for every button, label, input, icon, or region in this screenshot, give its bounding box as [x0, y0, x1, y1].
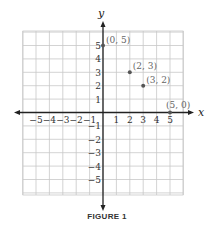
svg-text:(3, 2): (3, 2) [146, 75, 170, 85]
svg-text:−3: −3 [88, 148, 102, 158]
svg-text:−5: −5 [88, 175, 102, 185]
svg-text:(2, 3): (2, 3) [133, 61, 157, 71]
svg-text:(5, 0): (5, 0) [166, 100, 190, 110]
svg-text:−2: −2 [70, 115, 83, 125]
svg-text:2: 2 [95, 81, 101, 91]
svg-text:5: 5 [95, 41, 101, 51]
svg-text:x: x [198, 106, 205, 119]
svg-text:−3: −3 [56, 115, 70, 125]
svg-text:−4: −4 [88, 162, 102, 172]
svg-text:y: y [97, 7, 105, 20]
svg-text:−4: −4 [43, 115, 57, 125]
svg-text:5: 5 [167, 115, 173, 125]
svg-text:−1: −1 [88, 121, 101, 131]
svg-text:1: 1 [95, 95, 101, 105]
svg-text:2: 2 [127, 115, 133, 125]
figure-caption: FIGURE 1 [0, 212, 214, 221]
svg-text:3: 3 [95, 68, 101, 78]
svg-text:4: 4 [95, 54, 101, 64]
svg-text:−2: −2 [88, 135, 101, 145]
svg-text:1: 1 [114, 115, 120, 125]
svg-text:3: 3 [140, 115, 146, 125]
svg-text:(0, 5): (0, 5) [106, 35, 130, 45]
coordinate-plane: xy −5−4−3−2−11234554321−1−2−3−4−5 (0, 5)… [0, 0, 214, 225]
data-points: (0, 5)(2, 3)(3, 2)(5, 0) [101, 35, 190, 115]
svg-text:−5: −5 [29, 115, 43, 125]
svg-text:4: 4 [154, 115, 160, 125]
